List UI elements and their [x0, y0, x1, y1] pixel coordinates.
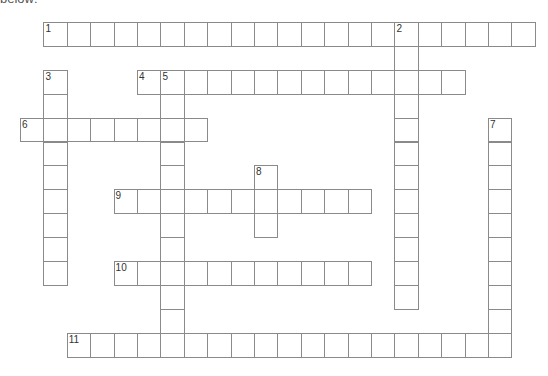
- crossword-cell[interactable]: [394, 189, 418, 214]
- crossword-cell[interactable]: 6: [20, 118, 44, 143]
- crossword-cell[interactable]: [43, 94, 67, 119]
- crossword-cell[interactable]: [231, 333, 255, 358]
- crossword-cell[interactable]: [160, 118, 184, 143]
- crossword-cell[interactable]: [277, 22, 301, 47]
- crossword-cell[interactable]: [348, 70, 372, 95]
- crossword-cell[interactable]: [418, 22, 442, 47]
- crossword-cell[interactable]: [231, 22, 255, 47]
- crossword-cell[interactable]: [488, 213, 512, 238]
- crossword-cell[interactable]: [348, 261, 372, 286]
- crossword-cell[interactable]: [324, 189, 348, 214]
- crossword-cell[interactable]: [301, 70, 325, 95]
- crossword-cell[interactable]: [207, 333, 231, 358]
- crossword-cell[interactable]: [160, 213, 184, 238]
- crossword-cell[interactable]: [394, 118, 418, 143]
- crossword-cell[interactable]: [114, 22, 138, 47]
- crossword-cell[interactable]: [394, 142, 418, 167]
- crossword-cell[interactable]: [184, 261, 208, 286]
- crossword-cell[interactable]: [348, 22, 372, 47]
- crossword-cell[interactable]: [160, 189, 184, 214]
- crossword-cell[interactable]: [488, 189, 512, 214]
- crossword-cell[interactable]: 3: [43, 70, 67, 95]
- crossword-cell[interactable]: [137, 22, 161, 47]
- crossword-cell[interactable]: [160, 142, 184, 167]
- crossword-cell[interactable]: [43, 118, 67, 143]
- crossword-cell[interactable]: [160, 94, 184, 119]
- crossword-cell[interactable]: [254, 213, 278, 238]
- crossword-cell[interactable]: [43, 261, 67, 286]
- crossword-cell[interactable]: [394, 333, 418, 358]
- crossword-cell[interactable]: [43, 165, 67, 190]
- crossword-cell[interactable]: [207, 261, 231, 286]
- crossword-cell[interactable]: [301, 22, 325, 47]
- crossword-cell[interactable]: [160, 309, 184, 334]
- crossword-cell[interactable]: [324, 333, 348, 358]
- crossword-cell[interactable]: 11: [67, 333, 91, 358]
- crossword-cell[interactable]: [184, 333, 208, 358]
- crossword-cell[interactable]: [277, 70, 301, 95]
- crossword-cell[interactable]: [254, 22, 278, 47]
- crossword-cell[interactable]: [394, 213, 418, 238]
- crossword-cell[interactable]: [184, 22, 208, 47]
- crossword-cell[interactable]: [418, 333, 442, 358]
- crossword-cell[interactable]: [43, 142, 67, 167]
- crossword-cell[interactable]: [488, 165, 512, 190]
- crossword-cell[interactable]: [277, 261, 301, 286]
- crossword-cell[interactable]: [43, 189, 67, 214]
- crossword-cell[interactable]: [43, 237, 67, 262]
- crossword-cell[interactable]: [394, 46, 418, 71]
- crossword-cell[interactable]: [324, 22, 348, 47]
- crossword-cell[interactable]: [371, 333, 395, 358]
- crossword-cell[interactable]: [511, 22, 535, 47]
- crossword-cell[interactable]: [207, 22, 231, 47]
- crossword-cell[interactable]: [114, 118, 138, 143]
- crossword-cell[interactable]: [207, 189, 231, 214]
- crossword-cell[interactable]: [394, 165, 418, 190]
- crossword-cell[interactable]: 1: [43, 22, 67, 47]
- crossword-cell[interactable]: [231, 261, 255, 286]
- crossword-cell[interactable]: [488, 261, 512, 286]
- crossword-cell[interactable]: [488, 237, 512, 262]
- crossword-cell[interactable]: [67, 118, 91, 143]
- crossword-cell[interactable]: 10: [114, 261, 138, 286]
- crossword-cell[interactable]: [488, 22, 512, 47]
- crossword-cell[interactable]: [324, 261, 348, 286]
- crossword-cell[interactable]: [254, 261, 278, 286]
- crossword-cell[interactable]: [277, 333, 301, 358]
- crossword-cell[interactable]: [137, 118, 161, 143]
- crossword-cell[interactable]: [254, 70, 278, 95]
- crossword-cell[interactable]: [43, 213, 67, 238]
- crossword-cell[interactable]: [90, 118, 114, 143]
- crossword-cell[interactable]: 4: [137, 70, 161, 95]
- crossword-cell[interactable]: [488, 309, 512, 334]
- crossword-cell[interactable]: [137, 333, 161, 358]
- crossword-cell[interactable]: [160, 261, 184, 286]
- crossword-cell[interactable]: [160, 22, 184, 47]
- crossword-cell[interactable]: [348, 333, 372, 358]
- crossword-cell[interactable]: [207, 70, 231, 95]
- crossword-cell[interactable]: [301, 189, 325, 214]
- crossword-cell[interactable]: [160, 237, 184, 262]
- crossword-cell[interactable]: [394, 70, 418, 95]
- crossword-cell[interactable]: [394, 261, 418, 286]
- crossword-cell[interactable]: [277, 189, 301, 214]
- crossword-cell[interactable]: [160, 285, 184, 310]
- crossword-cell[interactable]: [324, 70, 348, 95]
- crossword-cell[interactable]: [67, 22, 91, 47]
- crossword-cell[interactable]: [184, 118, 208, 143]
- crossword-cell[interactable]: [301, 261, 325, 286]
- crossword-cell[interactable]: [441, 22, 465, 47]
- crossword-cell[interactable]: [137, 261, 161, 286]
- crossword-cell[interactable]: [254, 189, 278, 214]
- crossword-cell[interactable]: [231, 70, 255, 95]
- crossword-cell[interactable]: 9: [114, 189, 138, 214]
- crossword-cell[interactable]: [301, 333, 325, 358]
- crossword-cell[interactable]: [371, 70, 395, 95]
- crossword-cell[interactable]: 5: [160, 70, 184, 95]
- crossword-cell[interactable]: [114, 333, 138, 358]
- crossword-cell[interactable]: [441, 70, 465, 95]
- crossword-cell[interactable]: [394, 94, 418, 119]
- crossword-cell[interactable]: [184, 70, 208, 95]
- crossword-cell[interactable]: [488, 142, 512, 167]
- crossword-cell[interactable]: [90, 22, 114, 47]
